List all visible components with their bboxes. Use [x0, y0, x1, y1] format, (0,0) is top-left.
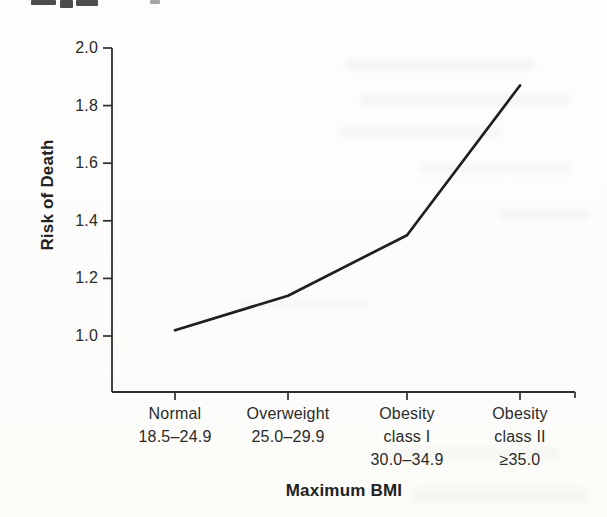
y-axis-title: Risk of Death: [38, 139, 58, 250]
x-category-label-line: class II: [492, 425, 548, 448]
y-tick-label: 1.8: [50, 96, 98, 116]
x-category-label: Obesityclass II≥35.0: [492, 402, 548, 471]
x-category-label-line: class I: [371, 425, 444, 448]
x-category-label-line: Overweight: [247, 402, 330, 425]
risk-of-death-series-line: [175, 85, 520, 330]
y-tick-label: 1.0: [50, 326, 98, 346]
bmi-risk-of-death-line-chart: 2.01.81.61.41.21.0 Normal18.5–24.9Overwe…: [0, 0, 607, 517]
y-tick-label: 1.2: [50, 268, 98, 288]
x-category-label-line: ≥35.0: [492, 448, 548, 471]
x-category-label-line: Obesity: [492, 402, 548, 425]
x-axis-title: Maximum BMI: [286, 481, 403, 501]
x-category-label: Normal18.5–24.9: [139, 402, 212, 448]
x-category-label-line: 25.0–29.9: [247, 425, 330, 448]
x-category-label-line: 18.5–24.9: [139, 425, 212, 448]
x-category-label-line: Normal: [139, 402, 212, 425]
x-category-label: Obesityclass I30.0–34.9: [371, 402, 444, 471]
y-tick-label: 2.0: [50, 38, 98, 58]
scanned-book-page: 2.01.81.61.41.21.0 Normal18.5–24.9Overwe…: [0, 0, 607, 517]
x-category-label-line: 30.0–34.9: [371, 448, 444, 471]
x-category-label-line: Obesity: [371, 402, 444, 425]
x-category-label: Overweight25.0–29.9: [247, 402, 330, 448]
